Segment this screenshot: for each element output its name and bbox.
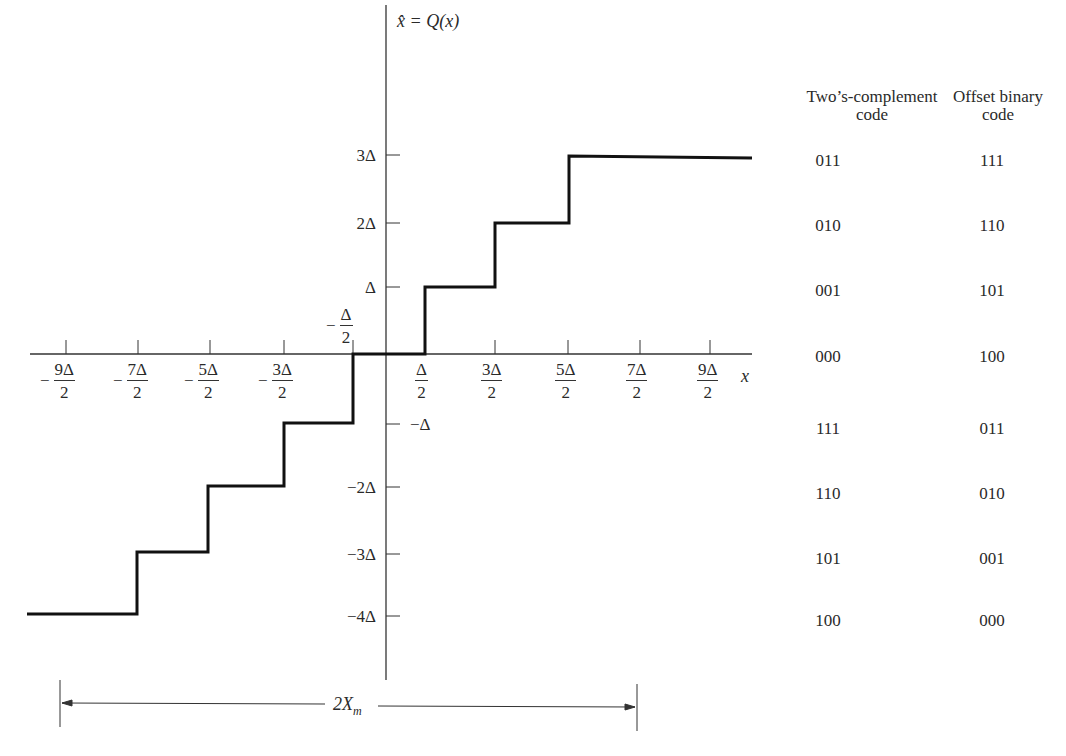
offset-code-row-1: 110 [962,216,1022,236]
offset-code-row-3: 100 [962,347,1022,367]
y-tick-label-3: 3Δ [316,147,376,164]
twos-code-row-0: 011 [798,151,858,171]
denominator: 2 [487,381,496,401]
x-tick-label-pos9: 9Δ2 [697,361,718,401]
x-tick-label-pos3: 3Δ2 [481,361,502,401]
denominator: 2 [561,381,570,401]
x-tick-label-pos1: Δ2 [415,361,428,401]
x-tick-label-neg3: − 3Δ2 [258,361,293,401]
header-offset-binary: Offset binary code [938,88,1058,124]
numerator: Δ [415,361,428,381]
numerator: 3Δ [272,361,293,381]
x-tick-label-neg9: − 9Δ2 [40,361,75,401]
offset-code-row-0: 111 [962,151,1022,171]
numerator: 7Δ [626,361,647,381]
numerator: 9Δ [697,361,718,381]
numerator: 5Δ [198,361,219,381]
y-tick-marks [386,155,400,616]
numerator: 3Δ [481,361,502,381]
denominator: 2 [278,381,287,401]
y-tick-label-2: 2Δ [316,215,376,232]
x-tick-label-pos5: 5Δ2 [555,361,576,401]
twos-code-row-1: 010 [798,216,858,236]
numerator: 9Δ [54,361,75,381]
x-axis-label: x [741,367,749,385]
offset-code-row-7: 000 [962,611,1022,631]
denominator: 2 [133,381,142,401]
span-label-main: 2X [333,694,353,714]
sign: − [184,371,194,391]
sign: − [258,371,268,391]
y-tick-label-neg1: −Δ [410,416,431,433]
denominator: 2 [703,381,712,401]
sign: − [113,371,123,391]
denominator: 2 [342,326,351,346]
twos-code-row-6: 101 [798,549,858,569]
sign: − [326,316,336,336]
header-line1: Two’s-complement [802,88,942,106]
twos-code-row-2: 001 [798,281,858,301]
offset-code-row-6: 001 [962,549,1022,569]
x-tick-label-neg5: − 5Δ2 [184,361,219,401]
y-tick-label-neg4: −4Δ [316,608,376,625]
y-tick-label-neg2: −2Δ [316,479,376,496]
header-twos-complement: Two’s-complement code [802,88,942,124]
denominator: 2 [417,381,426,401]
header-line2: code [802,106,942,124]
numerator: Δ [340,306,353,326]
twos-code-row-4: 111 [798,419,858,439]
y-axis-label-symbol: x̂ [397,11,405,31]
header-line1: Offset binary [938,88,1058,106]
span-label: 2Xm [330,695,365,717]
twos-code-row-7: 100 [798,611,858,631]
twos-code-row-5: 110 [798,484,858,504]
denominator: 2 [60,381,69,401]
offset-code-row-5: 010 [962,484,1022,504]
y-axis-label: x̂ = Q(x) [397,12,459,30]
y-axis-label-func: = Q(x) [405,11,459,31]
header-line2: code [938,106,1058,124]
twos-code-row-3: 000 [798,347,858,367]
offset-code-row-4: 011 [962,419,1022,439]
x-tick-label-neg7: − 7Δ2 [113,361,148,401]
denominator: 2 [204,381,213,401]
y-tick-label-neg3: −3Δ [316,546,376,563]
sign: − [40,371,50,391]
numerator: 7Δ [127,361,148,381]
span-label-sub: m [353,704,362,718]
offset-code-row-2: 101 [962,281,1022,301]
x-tick-marks [66,340,710,354]
x-tick-label-neg1: − Δ2 [326,306,353,346]
numerator: 5Δ [555,361,576,381]
y-tick-label-1: Δ [316,279,376,296]
denominator: 2 [632,381,641,401]
x-tick-label-pos7: 7Δ2 [626,361,647,401]
